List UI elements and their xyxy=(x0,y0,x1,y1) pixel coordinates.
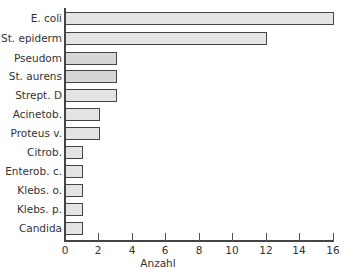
x-tick-label: 2 xyxy=(88,244,108,256)
category-label: Strept. D xyxy=(15,89,62,102)
x-tick-label: 12 xyxy=(256,244,276,256)
bar-klebs-p xyxy=(65,203,83,216)
x-tick-label: 14 xyxy=(289,244,309,256)
category-label: Pseudom xyxy=(14,52,62,65)
x-tick-label: 16 xyxy=(323,244,343,256)
x-tick xyxy=(232,233,233,241)
bar-chart: E. coli St. epiderm Pseudom St. aurens S… xyxy=(0,0,350,269)
category-label: St. epiderm xyxy=(1,32,62,45)
bar-st-aurens xyxy=(65,70,117,83)
bar-proteus-v xyxy=(65,127,100,140)
category-label: Citrob. xyxy=(27,146,62,159)
category-label: Candida xyxy=(19,222,62,235)
bar-strept-d xyxy=(65,89,117,102)
x-axis-title: Anzahl xyxy=(128,257,188,269)
x-tick xyxy=(199,233,200,241)
bar-pseudom xyxy=(65,52,117,65)
category-label: Proteus v. xyxy=(11,127,62,140)
bar-acinetob xyxy=(65,108,100,121)
category-label: Klebs. o. xyxy=(17,184,62,197)
x-tick xyxy=(299,233,300,241)
category-label: E. coli xyxy=(31,12,62,25)
x-tick xyxy=(266,233,267,241)
bar-st-epiderm xyxy=(65,32,267,45)
x-tick-label: 0 xyxy=(55,244,75,256)
x-tick xyxy=(165,233,166,241)
x-tick-label: 8 xyxy=(189,244,209,256)
category-label: Enterob. c. xyxy=(5,165,62,178)
bar-klebs-o xyxy=(65,184,83,197)
x-tick-label: 6 xyxy=(155,244,175,256)
x-tick-label: 4 xyxy=(122,244,142,256)
bar-citrob xyxy=(65,146,83,159)
x-tick xyxy=(98,233,99,241)
category-label: Acinetob. xyxy=(13,108,62,121)
x-tick xyxy=(132,233,133,241)
bar-candida xyxy=(65,222,83,235)
bar-enterob-c xyxy=(65,165,83,178)
x-tick-label: 10 xyxy=(222,244,242,256)
category-label: St. aurens xyxy=(9,70,62,83)
category-label: Klebs. p. xyxy=(17,203,62,216)
bar-e-coli xyxy=(65,12,334,25)
x-tick xyxy=(333,233,334,241)
